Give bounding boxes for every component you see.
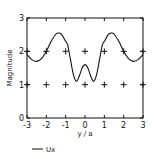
grid-plus-marker [82, 82, 88, 88]
x-tick-label: 2 [121, 121, 126, 130]
grid-plus-marker [43, 82, 49, 88]
plot-area [24, 33, 146, 88]
chart-svg: -3-2-101230123 Magnitude y / a Ux [0, 0, 154, 159]
y-tick-label: 0 [19, 114, 24, 123]
x-tick-label: -2 [42, 121, 50, 130]
series-line-ux [27, 33, 143, 81]
grid-plus-marker [121, 82, 127, 88]
x-tick-label: -1 [62, 121, 70, 130]
y-tick-label: 3 [19, 14, 24, 23]
legend-label-ux: Ux [46, 146, 55, 154]
grid-plus-marker [101, 82, 107, 88]
y-tick-label: 2 [19, 47, 24, 56]
y-axis-label: Magnitude [6, 49, 14, 86]
y-tick-label: 1 [19, 81, 24, 90]
x-tick-label: 1 [102, 121, 107, 130]
axes: -3-2-101230123 [19, 14, 146, 130]
x-tick-label: 3 [140, 121, 145, 130]
x-tick-label: 0 [82, 121, 87, 130]
plot-frame [27, 18, 143, 118]
grid-plus-marker [63, 82, 69, 88]
x-axis-label: y / a [77, 130, 92, 138]
x-tick-label: -3 [23, 121, 31, 130]
grid-plus-marker [63, 48, 69, 54]
grid-plus-marker [82, 48, 88, 54]
grid-plus-marker [101, 48, 107, 54]
